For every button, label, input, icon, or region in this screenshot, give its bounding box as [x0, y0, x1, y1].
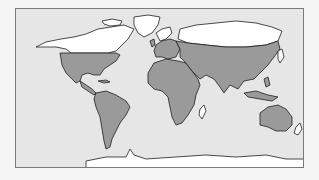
japan: [278, 49, 284, 63]
central-america: [80, 81, 96, 95]
philippines: [264, 77, 270, 87]
australia: [260, 105, 292, 131]
antarctica: [86, 149, 304, 168]
arctic-islands: [102, 19, 122, 26]
madagascar: [199, 105, 206, 119]
caribbean: [98, 80, 110, 83]
indonesia: [244, 91, 278, 101]
new-zealand: [294, 123, 302, 135]
united-kingdom: [150, 39, 155, 47]
world-map-frame: [15, 8, 304, 168]
usa-mexico: [60, 53, 120, 83]
siberia: [178, 21, 282, 47]
canada-alaska: [36, 25, 134, 53]
world-map: [16, 9, 304, 168]
south-america: [94, 91, 130, 149]
